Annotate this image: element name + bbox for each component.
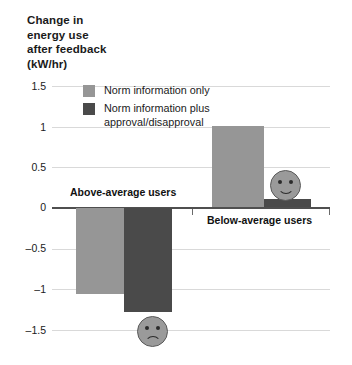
legend-swatch-light [83,85,95,97]
group-label-below-average: Below-average users [207,214,312,226]
gridline-neg-1-5 [52,330,330,331]
y-tick-label-neg-1-5: –1.5 [4,324,46,336]
eye-left-icon [145,326,149,330]
eye-right-icon [289,180,293,184]
frowning-face-icon [137,316,168,347]
mouth-smile-icon [278,185,294,194]
chart-legend: Norm information only Norm information p… [83,84,283,134]
eye-right-icon [156,326,160,330]
legend-item-norm-only: Norm information only [83,84,283,97]
y-tick-label-neg-1: –1 [4,283,46,295]
legend-label-norm-plus-approval: Norm information plus approval/disapprov… [104,102,210,129]
y-tick-label-neg-0-5: –0.5 [4,242,46,254]
bar-below-average-norm-only [212,126,264,207]
legend-label-norm-only: Norm information only [104,84,210,97]
group-label-above-average: Above-average users [70,186,176,198]
gridline-0-5 [52,167,330,168]
y-tick-label-0: 0 [4,201,46,213]
chart-title: Change in energy use after feedback (kW/… [27,13,187,71]
mouth-frown-icon [145,336,161,345]
axis-tick-right-end [329,209,330,215]
y-tick-label-0-5: 0.5 [4,161,46,173]
y-tick-label-1-5: 1.5 [4,80,46,92]
bar-above-average-norm-plus-approval [124,208,172,312]
bar-above-average-norm-only [76,208,124,294]
chart-figure: Change in energy use after feedback (kW/… [0,0,352,365]
eye-left-icon [278,180,282,184]
smiling-face-icon [270,170,301,201]
legend-swatch-dark [83,103,95,115]
axis-tick-group-separator [192,209,193,215]
legend-item-norm-plus-approval: Norm information plus approval/disapprov… [83,102,283,129]
y-tick-label-1: 1 [4,121,46,133]
